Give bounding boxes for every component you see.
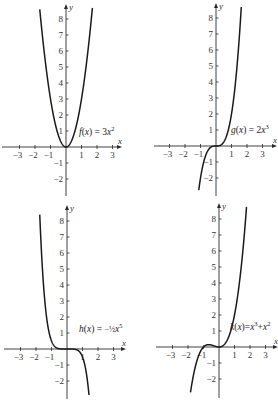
y-axis-arrow-icon bbox=[214, 3, 218, 8]
y-tick-label: 8 bbox=[59, 14, 64, 24]
function-graphs-figure: xy−3−2−1123−2−112345678f(x) = 3x2 xy−3−2… bbox=[0, 0, 278, 401]
x-tick-label: 2 bbox=[248, 350, 253, 360]
x-axis-label: x bbox=[273, 336, 278, 346]
y-tick-label: 2 bbox=[60, 312, 65, 322]
y-tick-label: 8 bbox=[209, 13, 214, 23]
y-tick-label: −2 bbox=[54, 376, 64, 386]
function-label: h(x) = −½x5 bbox=[79, 322, 122, 335]
x-tick-label: −1 bbox=[45, 352, 55, 362]
x-tick-label: 3 bbox=[263, 350, 268, 360]
x-axis-label: x bbox=[121, 338, 126, 348]
y-tick-label: 1 bbox=[209, 125, 214, 135]
y-tick-label: 4 bbox=[212, 278, 217, 288]
x-tick-label: −1 bbox=[194, 149, 204, 159]
plot-h-neg-half-x-fifth: xy−3−2−1123−2−112345678h(x) = −½x5 bbox=[4, 203, 126, 399]
x-axis-label: x bbox=[117, 136, 122, 146]
x-tick-label: −3 bbox=[163, 149, 173, 159]
y-tick-label: 2 bbox=[59, 110, 64, 120]
y-axis-arrow-icon bbox=[217, 203, 221, 208]
function-label: f(x) = 3x2 bbox=[79, 125, 115, 138]
y-tick-label: 1 bbox=[212, 326, 217, 336]
y-tick-label: 7 bbox=[59, 30, 64, 40]
y-tick-label: −1 bbox=[54, 360, 64, 370]
y-tick-label: −1 bbox=[206, 358, 216, 368]
x-tick-label: 2 bbox=[96, 352, 101, 362]
y-tick-label: 6 bbox=[209, 45, 214, 55]
y-tick-label: 2 bbox=[209, 109, 214, 119]
x-axis-label: x bbox=[272, 135, 277, 145]
y-tick-label: 6 bbox=[212, 246, 217, 256]
y-axis-arrow-icon bbox=[65, 205, 69, 210]
x-tick-label: −1 bbox=[44, 150, 54, 160]
y-tick-label: 3 bbox=[212, 294, 217, 304]
y-tick-label: 5 bbox=[209, 61, 214, 71]
x-tick-label: −2 bbox=[181, 350, 191, 360]
function-curve bbox=[40, 215, 89, 395]
x-tick-label: 2 bbox=[95, 150, 100, 160]
y-tick-label: 6 bbox=[59, 46, 64, 56]
function-label: k(x)=x3+x2 bbox=[230, 320, 270, 333]
y-tick-label: −2 bbox=[203, 173, 213, 183]
plot-f-3x-squared: xy−3−2−1123−2−112345678f(x) = 3x2 bbox=[2, 2, 122, 196]
y-tick-label: 4 bbox=[59, 78, 64, 88]
x-tick-label: 1 bbox=[79, 150, 84, 160]
y-axis-label: y bbox=[218, 1, 223, 11]
x-tick-label: −3 bbox=[166, 350, 176, 360]
y-tick-label: 3 bbox=[209, 93, 214, 103]
y-tick-label: 4 bbox=[209, 77, 214, 87]
y-tick-label: 3 bbox=[60, 296, 65, 306]
y-axis-label: y bbox=[68, 2, 73, 12]
y-tick-label: 4 bbox=[60, 280, 65, 290]
x-tick-label: 1 bbox=[229, 149, 234, 159]
y-tick-label: 5 bbox=[59, 62, 64, 72]
y-tick-label: −2 bbox=[206, 374, 216, 384]
x-tick-label: −3 bbox=[13, 150, 23, 160]
y-tick-label: 1 bbox=[60, 328, 65, 338]
x-tick-label: 3 bbox=[110, 150, 115, 160]
x-tick-label: 3 bbox=[111, 352, 116, 362]
x-tick-label: −2 bbox=[178, 149, 188, 159]
y-tick-label: 5 bbox=[212, 262, 217, 272]
function-label: g(x) = 2x3 bbox=[231, 123, 269, 136]
plot-k-x-cubed-plus-x-squared: xy−3−2−1123−2−112345678k(x)=x3+x2 bbox=[156, 201, 278, 398]
y-tick-label: 7 bbox=[212, 230, 217, 240]
y-tick-label: 3 bbox=[59, 94, 64, 104]
y-tick-label: −1 bbox=[53, 158, 63, 168]
y-tick-label: 1 bbox=[59, 126, 64, 136]
y-tick-label: 5 bbox=[60, 264, 65, 274]
x-tick-label: −2 bbox=[29, 352, 39, 362]
y-axis-label: y bbox=[221, 201, 226, 211]
plot-g-2x-cubed: xy−3−2−1123−2−112345678g(x) = 2x3 bbox=[154, 1, 277, 196]
y-tick-label: 8 bbox=[60, 216, 65, 226]
y-axis-label: y bbox=[69, 203, 74, 213]
x-tick-label: 2 bbox=[245, 149, 250, 159]
y-tick-label: 8 bbox=[212, 214, 217, 224]
y-tick-label: 7 bbox=[60, 232, 65, 242]
y-axis-arrow-icon bbox=[64, 4, 68, 9]
x-tick-label: 3 bbox=[260, 149, 265, 159]
x-tick-label: 1 bbox=[232, 350, 237, 360]
y-tick-label: 7 bbox=[209, 29, 214, 39]
y-tick-label: −2 bbox=[53, 174, 63, 184]
x-tick-label: −2 bbox=[28, 150, 38, 160]
y-tick-label: 2 bbox=[212, 310, 217, 320]
y-tick-label: 6 bbox=[60, 248, 65, 258]
x-tick-label: −3 bbox=[14, 352, 24, 362]
